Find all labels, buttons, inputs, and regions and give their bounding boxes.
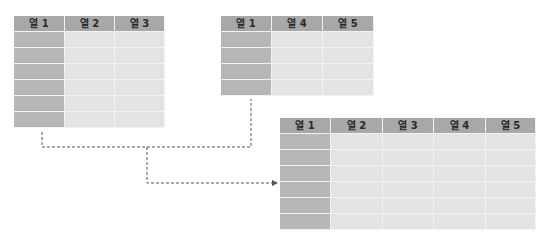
- join-connector-line: [42, 99, 251, 147]
- arrow-head-icon: [272, 180, 278, 186]
- merge-connector-line: [147, 147, 272, 183]
- join-connectors: [0, 0, 548, 243]
